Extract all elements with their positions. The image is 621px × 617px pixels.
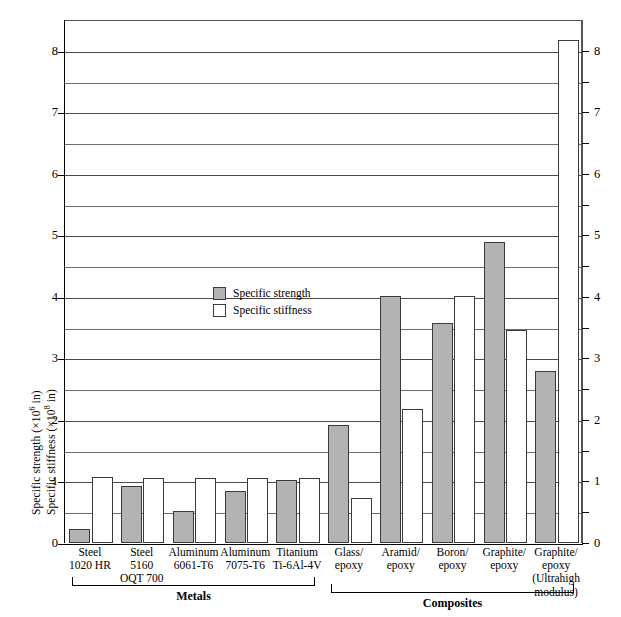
legend-item-specific-stiffness: Specific stiffness xyxy=(213,302,312,318)
y-axis-tick-right xyxy=(582,235,589,236)
y-axis-tick-label-right: 1 xyxy=(594,474,600,489)
y-axis-tick-right xyxy=(582,420,589,421)
gridline-minor xyxy=(65,206,581,207)
y-axis-tick-label-right: 4 xyxy=(594,289,600,304)
y-axis-tick-label-right: 0 xyxy=(594,536,600,551)
bar-specific-strength xyxy=(535,371,556,543)
y-axis-tick-right-minor xyxy=(582,266,589,267)
y-axis-tick-right xyxy=(582,174,589,175)
bar-specific-strength xyxy=(380,296,401,543)
y-axis-tick-right-minor xyxy=(582,82,589,83)
x-axis-category-label-line: Graphite/ xyxy=(521,546,591,559)
y-axis-tick-label-right: 5 xyxy=(594,228,600,243)
bar-specific-strength xyxy=(69,529,90,543)
y-axis-right: 012345678 xyxy=(582,20,620,543)
bar-specific-stiffness xyxy=(402,409,423,543)
bar-specific-strength xyxy=(328,425,349,543)
y-axis-tick-left xyxy=(58,175,65,176)
bar-specific-stiffness xyxy=(558,40,579,543)
y-axis-tick-left xyxy=(58,421,65,422)
chart-figure: Specific strength (×106 in) Specific sti… xyxy=(0,0,621,617)
y-axis-tick-right xyxy=(582,481,589,482)
bar-specific-strength xyxy=(121,486,142,543)
y-axis-tick-right xyxy=(582,112,589,113)
y-axis-tick-label-right: 6 xyxy=(594,166,600,181)
bar-specific-stiffness xyxy=(195,478,216,543)
y-axis-tick-label-right: 2 xyxy=(594,412,600,427)
bar-specific-stiffness xyxy=(454,296,475,543)
y-axis-tick-right-minor xyxy=(582,512,589,513)
gridline-minor xyxy=(65,144,581,145)
y-axis-right-line xyxy=(582,20,583,543)
bar-specific-stiffness xyxy=(247,478,268,543)
y-axis-tick-label-left: 4 xyxy=(38,289,58,304)
y-axis-tick-label-left: 5 xyxy=(38,228,58,243)
y-axis-tick-label-right: 8 xyxy=(594,43,600,58)
plot-inner xyxy=(65,21,581,543)
bar-specific-stiffness xyxy=(351,498,372,543)
gridline-major xyxy=(65,236,581,237)
bar-specific-stiffness xyxy=(299,478,320,543)
legend-label-strength: Specific strength xyxy=(233,287,311,299)
y-axis-tick-right xyxy=(582,358,589,359)
legend-label-stiffness: Specific stiffness xyxy=(233,304,312,316)
y-axis-tick-label-right: 7 xyxy=(594,105,600,120)
y-axis-tick-left xyxy=(58,52,65,53)
y-axis-tick-left xyxy=(58,482,65,483)
y-axis-tick-label-left: 2 xyxy=(38,412,58,427)
bracket-metals xyxy=(72,577,315,586)
y-axis-tick-right-minor xyxy=(582,328,589,329)
y-axis-tick-right-minor xyxy=(582,389,589,390)
y-axis-tick-left xyxy=(58,113,65,114)
x-axis-baseline xyxy=(63,544,583,545)
bar-specific-strength xyxy=(484,242,505,543)
bracket-label-composites: Composites xyxy=(331,596,574,611)
bar-specific-strength xyxy=(225,491,246,543)
y-axis-tick-label-left: 7 xyxy=(38,105,58,120)
y-axis-tick-right xyxy=(582,297,589,298)
y-axis-tick-left xyxy=(58,236,65,237)
plot-area: Specific strength Specific stiffness xyxy=(64,20,582,543)
y-axis-tick-label-left: 1 xyxy=(38,474,58,489)
y-axis-tick-right-minor xyxy=(582,205,589,206)
legend: Specific strength Specific stiffness xyxy=(213,285,312,319)
bar-specific-stiffness xyxy=(92,477,113,543)
y-axis-tick-left xyxy=(58,359,65,360)
y-axis-tick-right xyxy=(582,543,589,544)
legend-swatch-stiffness xyxy=(213,304,226,317)
bar-specific-strength xyxy=(173,511,194,543)
y-axis-tick-label-right: 3 xyxy=(594,351,600,366)
bar-specific-strength xyxy=(276,480,297,543)
y-axis-tick-right-minor xyxy=(582,451,589,452)
y-axis-left-labels: 012345678 xyxy=(28,20,58,543)
y-axis-tick-label-left: 3 xyxy=(38,351,58,366)
gridline-minor xyxy=(65,83,581,84)
legend-swatch-strength xyxy=(213,287,226,300)
bar-specific-stiffness xyxy=(143,478,164,543)
y-axis-tick-label-left: 8 xyxy=(38,43,58,58)
y-axis-tick-right xyxy=(582,51,589,52)
bar-specific-stiffness xyxy=(506,330,527,543)
bar-specific-strength xyxy=(432,323,453,543)
bracket-label-metals: Metals xyxy=(72,589,315,604)
y-axis-tick-label-left: 6 xyxy=(38,166,58,181)
gridline-major xyxy=(65,52,581,53)
gridline-major xyxy=(65,175,581,176)
y-axis-tick-left xyxy=(58,298,65,299)
x-axis-category-label-line: epoxy xyxy=(521,559,591,572)
gridline-major xyxy=(65,113,581,114)
legend-item-specific-strength: Specific strength xyxy=(213,285,312,301)
y-axis-tick-right-minor xyxy=(582,143,589,144)
bracket-composites xyxy=(331,584,574,593)
